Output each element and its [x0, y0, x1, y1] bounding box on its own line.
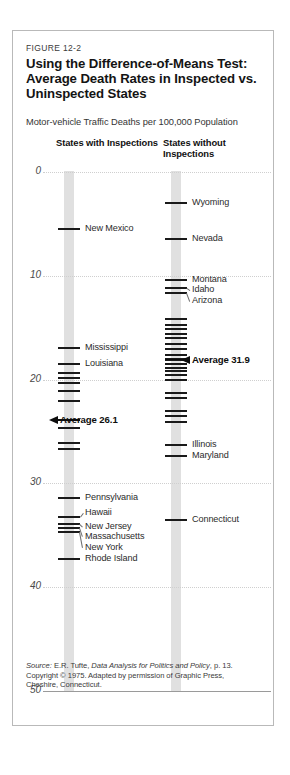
average-arrow-icon [181, 356, 190, 364]
data-tick [58, 531, 80, 533]
data-tick [165, 392, 187, 394]
state-label: Mississippi [85, 342, 128, 352]
column-header-left: States with Inspections [56, 138, 158, 149]
axis-tick-label-40: 10 [21, 269, 41, 280]
axis-tick-label-50: 0 [21, 165, 41, 176]
data-tick [165, 397, 187, 399]
state-label: Hawaii [85, 507, 112, 517]
data-tick [165, 370, 187, 372]
data-tick [58, 427, 80, 429]
axis-tick-label-10: 40 [21, 580, 41, 591]
data-tick [165, 444, 187, 446]
state-label: Nevada [192, 233, 223, 243]
data-tick [58, 377, 80, 379]
state-label: New Mexico [85, 223, 134, 233]
source-copyright: Copyright © 1975. Adapted by permission … [26, 671, 224, 690]
state-label: Connecticut [192, 514, 239, 524]
state-label: Illinois [192, 439, 216, 449]
state-label: Arizona [192, 295, 222, 305]
average-label: Average 26.1 [60, 414, 118, 425]
figure-source: Source: E.R. Tufte, Data Analysis for Po… [26, 661, 258, 690]
data-tick [165, 343, 187, 345]
state-label: New Jersey [85, 521, 132, 531]
data-tick [58, 390, 80, 392]
state-label: Wyoming [192, 197, 229, 207]
data-tick [165, 410, 187, 412]
state-label: Idaho [192, 284, 214, 294]
data-tick [58, 527, 80, 529]
label-leader-line [80, 513, 84, 518]
data-tick [165, 337, 187, 339]
state-label: Pennsylvania [85, 492, 138, 502]
data-tick [58, 372, 80, 374]
value-bar-right [171, 171, 181, 692]
data-tick [58, 442, 80, 444]
value-bar-left [64, 171, 74, 692]
data-tick [165, 455, 187, 457]
data-tick [58, 382, 80, 384]
data-tick [165, 202, 187, 204]
data-tick [58, 347, 80, 349]
axis-tick-label-20: 30 [21, 476, 41, 487]
data-tick [165, 415, 187, 417]
data-tick [165, 324, 187, 326]
source-work: Data Analysis for Politics and Policy [91, 661, 210, 670]
data-tick [165, 333, 187, 335]
source-prefix: Source: [26, 661, 52, 670]
data-tick [165, 318, 187, 320]
state-label: Louisiana [85, 358, 123, 368]
data-tick [165, 374, 187, 376]
gridline-10 [43, 587, 271, 589]
data-tick [165, 279, 187, 281]
data-tick [58, 228, 80, 230]
data-tick [58, 363, 80, 365]
label-leader-line [186, 288, 190, 291]
state-label: Montana [192, 274, 227, 284]
chart-plot-area: States with InspectionsStates without In… [13, 31, 274, 726]
state-label: Massachusetts [85, 531, 144, 541]
average-arrow-icon [49, 416, 58, 424]
data-tick [165, 421, 187, 423]
state-label: Maryland [192, 450, 229, 460]
average-label: Average 31.9 [192, 354, 250, 365]
axis-tick-label-30: 20 [21, 373, 41, 384]
data-tick [58, 497, 80, 499]
gridline-40 [43, 276, 271, 278]
state-label: Rhode Island [85, 553, 137, 563]
data-tick [165, 379, 187, 381]
gridline-20 [43, 483, 271, 485]
data-tick [165, 238, 187, 240]
data-tick [165, 367, 187, 369]
data-tick [165, 348, 187, 350]
column-header-right: States without Inspections [163, 138, 274, 159]
figure-card: FIGURE 12-2 Using the Difference-of-Mean… [12, 30, 274, 726]
data-tick [58, 558, 80, 560]
source-page: , p. 13. [210, 661, 233, 670]
gridline-50 [43, 172, 271, 174]
data-tick [165, 287, 187, 289]
source-author: E.R. Tufte, [52, 661, 91, 670]
data-tick [58, 400, 80, 402]
data-tick [165, 519, 187, 521]
gridline-0 [43, 691, 271, 693]
data-tick [58, 448, 80, 450]
data-tick [58, 516, 80, 518]
data-tick [165, 328, 187, 330]
data-tick [165, 292, 187, 294]
state-label: New York [85, 542, 123, 552]
label-leader-line [186, 293, 190, 301]
data-tick [58, 523, 80, 525]
